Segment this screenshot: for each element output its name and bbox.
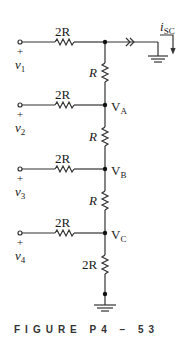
label-2r-v4: 2R bbox=[55, 216, 70, 229]
label-r-1: R bbox=[89, 66, 97, 79]
resistor-r-3 bbox=[102, 191, 108, 210]
label-vb: VB bbox=[111, 164, 126, 177]
terminal-v2 bbox=[18, 103, 22, 107]
terminal-v1 bbox=[18, 40, 22, 44]
plus-sign-v3: + bbox=[17, 173, 23, 184]
input-branch-v2 bbox=[18, 102, 105, 108]
plus-sign-v1: + bbox=[17, 46, 23, 57]
label-v2: v2 bbox=[15, 121, 25, 134]
terminal-v4 bbox=[18, 231, 22, 235]
input-branch-v3 bbox=[18, 166, 105, 172]
resistor-r-1 bbox=[102, 63, 108, 82]
ground-icon-output bbox=[148, 56, 168, 62]
input-branch-v4 bbox=[18, 230, 105, 236]
node-va bbox=[103, 103, 107, 107]
label-2r-bottom: 2R bbox=[82, 258, 97, 271]
label-v3: v3 bbox=[15, 185, 25, 198]
resistor-2r-v1 bbox=[55, 39, 74, 45]
circuit-diagram bbox=[0, 0, 182, 352]
node-ground bbox=[103, 292, 107, 296]
label-r-3: R bbox=[89, 194, 97, 207]
resistor-2r-v4 bbox=[55, 230, 74, 236]
terminal-v3 bbox=[18, 167, 22, 171]
resistor-r-2 bbox=[102, 127, 108, 146]
plus-sign-v2: + bbox=[17, 109, 23, 120]
label-isc: iSC bbox=[160, 20, 175, 33]
label-v1: v1 bbox=[15, 58, 25, 71]
resistor-2r-bottom bbox=[102, 255, 108, 274]
resistor-2r-v2 bbox=[55, 102, 74, 108]
node-vc bbox=[103, 231, 107, 235]
label-r-2: R bbox=[89, 130, 97, 143]
label-v4: v4 bbox=[15, 249, 25, 262]
label-2r-v1: 2R bbox=[55, 25, 70, 38]
node-vb bbox=[103, 167, 107, 171]
label-va: VA bbox=[111, 100, 127, 113]
resistor-2r-v3 bbox=[55, 166, 74, 172]
node-top bbox=[103, 40, 107, 44]
label-2r-v3: 2R bbox=[55, 152, 70, 165]
plus-sign-v4: + bbox=[17, 237, 23, 248]
ground-icon-bottom bbox=[94, 305, 116, 311]
input-branch-v1 bbox=[18, 39, 105, 45]
label-vc: VC bbox=[111, 228, 126, 241]
figure-caption: FIGURE P4 – 53 bbox=[14, 324, 159, 335]
label-2r-v2: 2R bbox=[55, 88, 70, 101]
